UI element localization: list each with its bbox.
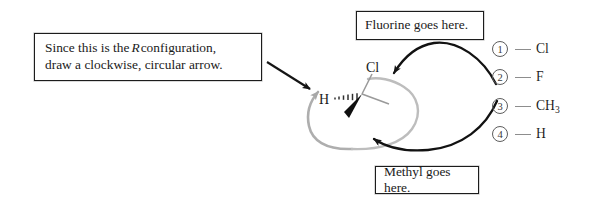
rank-connector-line — [515, 77, 531, 78]
callout-methyl-text: Methyl goes here. — [384, 164, 470, 197]
hashed-wedge-to-hydrogen — [335, 93, 357, 100]
rank-substituent-label: Cl — [536, 42, 549, 56]
atom-label-hydrogen: H — [319, 93, 329, 107]
rank-substituent-label: H — [536, 127, 546, 141]
callout-configuration: Since this is theRconfiguration, draw a … — [34, 33, 262, 81]
callout-configuration-line1: Since this is theRconfiguration, — [45, 40, 252, 56]
methyl-pointer-arrow — [374, 101, 497, 150]
priority-row: 2 F — [492, 66, 544, 88]
rank-connector-line — [515, 134, 531, 135]
atom-label-chlorine: Cl — [366, 61, 379, 75]
molecule-bonds — [335, 74, 389, 118]
substituent-text: H — [536, 126, 546, 141]
rank-substituent-label: CH3 — [536, 99, 560, 113]
priority-row: 3 CH3 — [492, 95, 560, 117]
bold-wedge-bond — [344, 94, 362, 118]
rank-badge: 2 — [492, 69, 508, 85]
rank-badge: 1 — [492, 41, 508, 57]
rank-connector-line — [515, 49, 531, 50]
pointer-to-circle-arrow — [267, 62, 310, 89]
callout-configuration-descriptor: R — [129, 40, 140, 55]
fluorine-pointer-arrow — [394, 43, 496, 84]
substituent-text: CH — [536, 98, 555, 113]
callout-configuration-line1-suffix: configuration, — [141, 40, 217, 55]
substituent-text: Cl — [536, 41, 549, 56]
circular-arrow — [308, 78, 418, 149]
figure-canvas: Since this is theRconfiguration, draw a … — [0, 0, 600, 204]
callout-methyl: Methyl goes here. — [375, 166, 479, 194]
substituent-subscript: 3 — [555, 104, 560, 115]
rank-connector-line — [515, 106, 531, 107]
priority-list: 1 Cl 2 F 3 CH3 4 H — [492, 38, 600, 148]
callout-configuration-line1-prefix: Since this is the — [45, 40, 129, 55]
rank-badge: 4 — [492, 126, 508, 142]
priority-row: 1 Cl — [492, 38, 549, 60]
callout-configuration-line2: draw a clockwise, circular arrow. — [45, 57, 252, 73]
priority-row: 4 H — [492, 123, 546, 145]
rank-substituent-label: F — [536, 70, 544, 84]
callout-fluorine-text: Fluorine goes here. — [365, 17, 475, 33]
rank-badge: 3 — [492, 98, 508, 114]
substituent-text: F — [536, 69, 544, 84]
bond-to-chlorine — [362, 74, 372, 94]
callout-fluorine: Fluorine goes here. — [356, 11, 484, 40]
bond-plain-lower-right — [362, 94, 389, 104]
